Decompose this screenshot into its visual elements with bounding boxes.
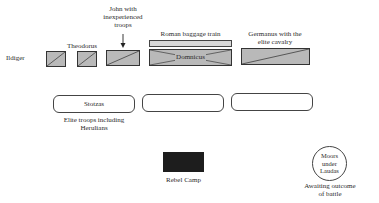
idiger-unit <box>46 51 66 67</box>
baggage-train-bar <box>149 40 232 47</box>
stotzas-caption-line-1: Elite troops including <box>53 116 135 124</box>
moors-caption-line-1: Awaiting outcome <box>295 182 365 190</box>
theodorus-label: Theodorus <box>67 42 97 50</box>
domnicus-label: Domnicus <box>150 53 231 61</box>
john-unit <box>106 50 140 66</box>
germanus-unit <box>241 48 310 65</box>
idiger-label: Ildiger <box>6 54 25 62</box>
theodorus-unit <box>77 51 97 67</box>
diagonal-line-icon <box>78 52 96 66</box>
moors-label: Moors under Laudas <box>320 152 339 175</box>
diagonal-line-icon <box>47 52 65 66</box>
arrow-down-icon <box>119 34 127 48</box>
rebel-camp-block <box>163 152 204 172</box>
germanus-label-line-2: elite cavalry <box>238 38 312 46</box>
diagonal-line-icon <box>242 49 309 64</box>
baggage-train-label: Roman baggage train <box>149 30 232 38</box>
diagonal-line-icon <box>107 51 139 65</box>
stotzas-label: Stotzas <box>84 100 104 108</box>
domnicus-label-text: Domnicus <box>175 53 206 61</box>
john-label-line-3: troops <box>104 21 142 29</box>
stotzas-caption-line-2: Herulians <box>53 124 135 132</box>
john-label-line-2: inexperienced <box>97 13 149 21</box>
domnicus-unit: Domnicus <box>149 49 232 66</box>
second-line-box-right <box>231 93 313 111</box>
john-label-line-1: John with <box>104 5 142 13</box>
stotzas-box: Stotzas <box>53 95 135 113</box>
moors-caption-line-2: of battle <box>295 190 365 198</box>
germanus-label-line-1: Germanus with the <box>238 30 312 38</box>
second-line-box-middle <box>142 94 224 112</box>
moors-circle: Moors under Laudas <box>312 146 347 181</box>
rebel-camp-label: Rebel Camp <box>158 176 209 184</box>
